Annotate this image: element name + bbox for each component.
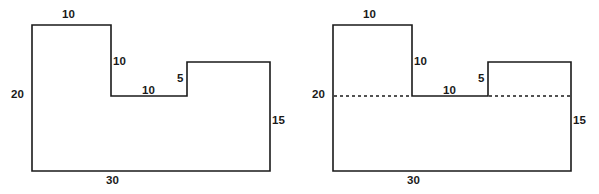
label-left-height: 20 (312, 89, 325, 101)
label-bottom-edge: 30 (106, 175, 119, 187)
label-right-height: 15 (272, 115, 285, 127)
right-figure: 10 10 20 10 5 15 30 (300, 0, 599, 194)
polygon-path (32, 25, 270, 171)
label-top-edge: 10 (62, 9, 75, 21)
label-left-height: 20 (11, 89, 24, 101)
left-figure: 10 10 20 10 5 15 30 (0, 0, 299, 194)
left-figure-outline (0, 0, 299, 194)
label-first-riser: 10 (113, 56, 126, 68)
label-notch-floor: 10 (443, 85, 456, 97)
label-first-riser: 10 (414, 56, 427, 68)
label-top-edge: 10 (363, 9, 376, 21)
right-figure-outline (300, 0, 599, 194)
diagram-canvas: 10 10 20 10 5 15 30 10 10 20 10 5 15 30 (0, 0, 599, 194)
label-bottom-edge: 30 (407, 175, 420, 187)
label-second-riser: 5 (478, 73, 485, 85)
label-second-riser: 5 (177, 73, 184, 85)
polygon-path (333, 25, 571, 171)
label-notch-floor: 10 (142, 85, 155, 97)
label-right-height: 15 (573, 115, 586, 127)
